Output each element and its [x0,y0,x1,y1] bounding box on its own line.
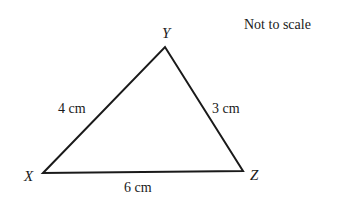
triangle-svg: Y X Z 4 cm 3 cm 6 cm Not to scale [0,0,345,219]
vertex-label-z: Z [250,167,259,183]
triangle-diagram: Y X Z 4 cm 3 cm 6 cm Not to scale [0,0,345,219]
not-to-scale-note: Not to scale [244,17,311,32]
side-label-xz: 6 cm [124,180,152,195]
vertex-label-x: X [23,168,34,184]
side-label-yz: 3 cm [212,101,240,116]
side-label-xy: 4 cm [58,101,86,116]
vertex-label-y: Y [162,25,172,41]
